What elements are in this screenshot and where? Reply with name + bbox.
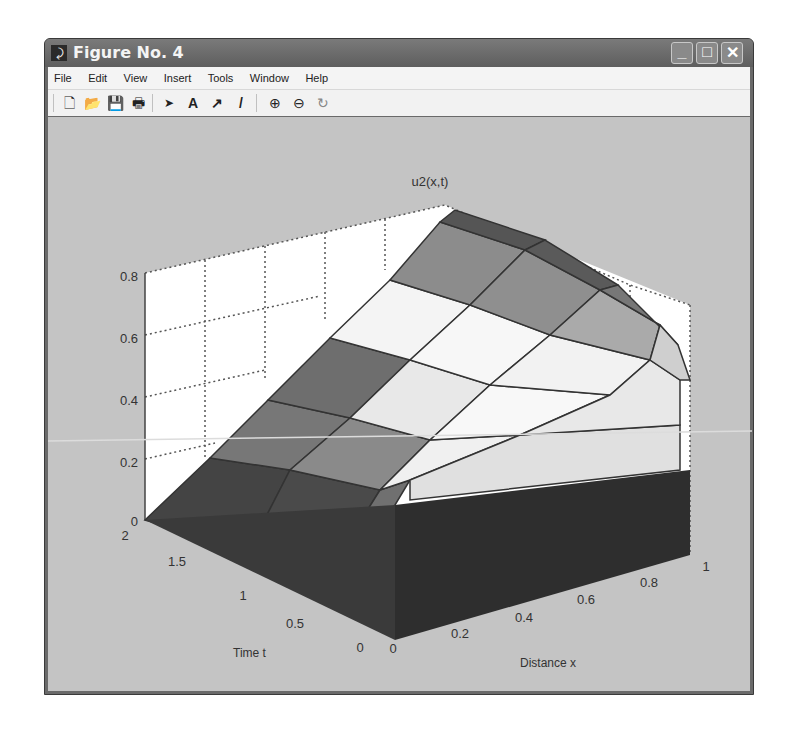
toolbar: 🗋 📂 💾 🖶 ➤ A ↗ / ⊕ ⊖ ↻ [48, 90, 750, 116]
svg-text:0: 0 [131, 514, 138, 529]
toolbar-separator [152, 94, 153, 112]
insert-arrow-icon[interactable]: ↗ [208, 94, 226, 112]
menu-edit[interactable]: Edit [88, 72, 107, 84]
svg-text:1.5: 1.5 [168, 554, 186, 569]
insert-text-icon[interactable]: A [184, 94, 202, 112]
window-title: Figure No. 4 [73, 43, 184, 62]
close-button[interactable]: ✕ [721, 42, 743, 64]
svg-text:0.4: 0.4 [515, 610, 533, 625]
z-tick-labels: 0.8 0.6 0.4 0.2 0 [120, 269, 138, 529]
menu-bar: File Edit View Insert Tools Window Help [48, 67, 750, 90]
svg-text:0.4: 0.4 [120, 393, 138, 408]
svg-text:0.2: 0.2 [451, 626, 469, 641]
svg-text:0.8: 0.8 [120, 269, 138, 284]
svg-text:1: 1 [702, 559, 709, 574]
menu-file[interactable]: File [54, 72, 72, 84]
menu-view[interactable]: View [124, 72, 148, 84]
menu-help[interactable]: Help [305, 72, 328, 84]
svg-text:0.5: 0.5 [286, 616, 304, 631]
matlab-figure-icon: ⤸ [51, 45, 67, 61]
new-figure-icon[interactable]: 🗋 [60, 94, 78, 112]
insert-line-icon[interactable]: / [232, 94, 250, 112]
minimize-button[interactable]: _ [671, 42, 693, 64]
svg-text:0: 0 [356, 640, 363, 655]
svg-text:0.2: 0.2 [120, 455, 138, 470]
title-bar[interactable]: ⤸ Figure No. 4 _ □ ✕ [45, 39, 753, 67]
distance-axis-label: Distance x [520, 656, 576, 670]
menu-window[interactable]: Window [250, 72, 289, 84]
open-file-icon[interactable]: 📂 [83, 94, 101, 112]
svg-text:0.6: 0.6 [120, 331, 138, 346]
print-icon[interactable]: 🖶 [129, 94, 147, 112]
time-axis-label: Time t [233, 646, 267, 660]
svg-text:0: 0 [389, 641, 396, 656]
figure-canvas[interactable]: u2(x,t) 0.8 0.6 0.4 0.2 0 2 1.5 1 0.5 0 … [48, 117, 750, 691]
front-face-t [145, 505, 395, 640]
plot-title: u2(x,t) [412, 174, 449, 189]
svg-text:2: 2 [121, 528, 128, 543]
svg-text:0.8: 0.8 [640, 575, 658, 590]
edit-plot-arrow-icon[interactable]: ➤ [160, 94, 178, 112]
figure-window: ⤸ Figure No. 4 _ □ ✕ File Edit View Inse… [44, 38, 754, 695]
menu-tools[interactable]: Tools [208, 72, 234, 84]
zoom-in-icon[interactable]: ⊕ [266, 94, 284, 112]
zoom-out-icon[interactable]: ⊖ [290, 94, 308, 112]
maximize-button[interactable]: □ [696, 42, 718, 64]
svg-text:1: 1 [239, 588, 246, 603]
menu-insert[interactable]: Insert [164, 72, 192, 84]
surface-plot[interactable]: u2(x,t) 0.8 0.6 0.4 0.2 0 2 1.5 1 0.5 0 … [48, 117, 752, 692]
rotate-3d-icon[interactable]: ↻ [314, 94, 332, 112]
toolbar-separator [256, 94, 257, 112]
svg-text:0.6: 0.6 [577, 592, 595, 607]
save-icon[interactable]: 💾 [106, 94, 124, 112]
toolbar-grip [53, 94, 54, 112]
